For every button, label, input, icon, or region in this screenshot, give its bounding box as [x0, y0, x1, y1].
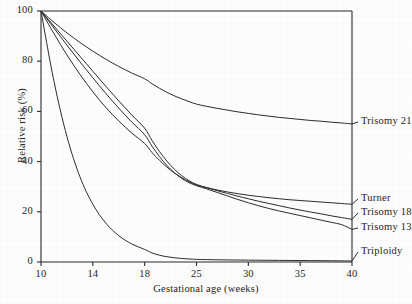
series-curve-triploidy — [41, 11, 352, 261]
x-tick-label: 35 — [280, 268, 320, 279]
x-tick-label: 18 — [125, 268, 165, 279]
series-label-trisomy-21: Trisomy 21 — [361, 115, 412, 126]
x-tick-label: 14 — [73, 268, 113, 279]
series-label-triploidy: Triploidy — [361, 245, 403, 256]
x-axis-title: Gestational age (weeks) — [0, 283, 412, 294]
leader-line — [352, 199, 358, 204]
series-label-trisomy-18: Trisomy 18 — [361, 206, 412, 217]
figure-canvas: 02040608010010141825303540 Trisomy 21Tur… — [0, 0, 412, 304]
leader-line — [352, 252, 358, 261]
series-curve-turner — [41, 11, 352, 204]
series-curves — [41, 11, 352, 261]
leader-line — [352, 228, 358, 229]
leader-line — [352, 122, 358, 124]
axes-frame — [41, 11, 352, 262]
y-tick-label: 100 — [0, 4, 33, 15]
series-label-trisomy-13: Trisomy 13 — [361, 221, 412, 232]
x-tick-label: 10 — [21, 268, 61, 279]
y-tick-label: 0 — [0, 255, 33, 266]
x-tick-label: 30 — [228, 268, 268, 279]
tick-marks — [37, 11, 352, 266]
x-tick-label: 25 — [177, 268, 217, 279]
y-axis-title: Relative risk (%) — [16, 61, 27, 191]
y-tick-label: 20 — [0, 205, 33, 216]
x-tick-label: 40 — [332, 268, 372, 279]
leader-line — [352, 213, 358, 219]
series-label-turner: Turner — [361, 192, 391, 203]
series-leader-lines — [352, 122, 358, 261]
series-curve-trisomy-21 — [41, 11, 352, 124]
series-curve-trisomy-18 — [41, 11, 352, 219]
chart-plot-svg — [0, 0, 412, 304]
